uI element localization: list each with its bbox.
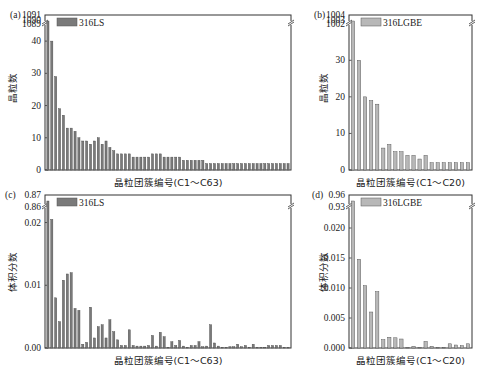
bar [194, 160, 196, 170]
legend-label: 316LS [79, 198, 104, 208]
chart-panel-a: (a)109110901089010203040316LS晶粒团簇编号(C1～C… [7, 10, 294, 188]
bar [241, 347, 243, 348]
y-tick-upper: 0.87 [24, 190, 41, 200]
bar [182, 346, 184, 348]
bar [400, 152, 403, 170]
bar [412, 346, 415, 348]
bar [70, 273, 72, 348]
bar [418, 347, 421, 348]
bar [120, 345, 122, 348]
bar [101, 325, 103, 348]
bar [171, 342, 173, 348]
bar [412, 155, 415, 170]
bar [357, 60, 360, 170]
legend-label: 316LGBE [383, 18, 422, 28]
bar [86, 342, 88, 348]
bar [124, 154, 126, 170]
bar [105, 141, 107, 170]
bar [229, 164, 231, 170]
bar [74, 131, 76, 170]
bar [388, 337, 391, 348]
y-tick-upper: 0.86 [24, 202, 41, 212]
bar [144, 346, 146, 348]
bar [51, 41, 53, 170]
bar [229, 347, 231, 348]
bar [89, 144, 91, 170]
y-tick: 30 [336, 55, 346, 65]
bar [460, 163, 463, 170]
bar [202, 160, 204, 170]
bar [221, 347, 223, 348]
bar [151, 335, 153, 348]
bar [167, 347, 169, 348]
bar [252, 344, 254, 348]
bar [175, 345, 177, 348]
bar [264, 164, 266, 170]
bar [363, 286, 366, 348]
bar [97, 327, 99, 348]
bar [363, 97, 366, 170]
bar [252, 164, 254, 170]
panel-label: (d) [312, 190, 323, 201]
panel-label: (a) [10, 10, 21, 21]
bar [117, 340, 119, 348]
bar [424, 155, 427, 170]
bar [47, 201, 49, 348]
bar [132, 157, 134, 170]
y-tick: 20 [32, 101, 42, 111]
bar [124, 345, 126, 348]
bar [113, 151, 115, 170]
bar [206, 164, 208, 170]
y-tick: 40 [32, 36, 42, 46]
bar [136, 346, 138, 348]
bar [424, 341, 427, 348]
bar [140, 346, 142, 348]
legend-swatch [57, 18, 77, 26]
y-tick: 30 [32, 68, 42, 78]
bar [62, 280, 64, 348]
bar [132, 345, 134, 348]
bar [394, 338, 397, 348]
bar [190, 160, 192, 170]
x-axis-label: 晶粒团簇编号(C1～C63) [114, 177, 223, 188]
legend-swatch [57, 198, 77, 206]
bar [376, 292, 379, 348]
bar [202, 347, 204, 348]
bar [287, 347, 289, 348]
y-tick-upper: 0.93 [328, 202, 345, 212]
bar [217, 346, 219, 348]
bar [159, 332, 161, 348]
bar [260, 164, 262, 170]
y-tick-upper: 0.96 [328, 190, 345, 200]
bar [213, 343, 215, 348]
legend-swatch [361, 18, 381, 26]
bar [225, 164, 227, 170]
bar [148, 157, 150, 170]
y-tick: 0.00 [24, 343, 41, 353]
bar [448, 163, 451, 170]
bar [186, 347, 188, 348]
bar [128, 154, 130, 170]
bar [283, 164, 285, 170]
bar [264, 347, 266, 348]
bar [233, 347, 235, 348]
bar [47, 21, 49, 170]
bar [140, 157, 142, 170]
y-axis-label: 体积分数 [7, 252, 18, 292]
bar [62, 115, 64, 170]
bar [74, 308, 76, 348]
bar [171, 157, 173, 170]
bar [454, 163, 457, 170]
bar [283, 347, 285, 348]
bar [66, 128, 68, 170]
bar [454, 345, 457, 348]
bar [113, 332, 115, 348]
bar [120, 154, 122, 170]
bar [370, 312, 373, 348]
bar [442, 347, 445, 348]
y-tick-upper: 1002 [326, 19, 345, 29]
y-tick: 0.02 [24, 218, 41, 228]
bar [144, 157, 146, 170]
bar [70, 128, 72, 170]
bar [175, 157, 177, 170]
